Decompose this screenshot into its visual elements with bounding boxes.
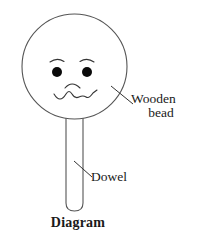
dowel-shape xyxy=(66,108,83,211)
diagram-canvas xyxy=(0,0,198,240)
label-wooden-bead-line1: Wooden xyxy=(131,91,176,106)
label-wooden-bead-line2: bead xyxy=(131,106,191,120)
left-eye-icon xyxy=(52,67,62,77)
right-eye-icon xyxy=(82,67,92,77)
label-wooden-bead: Wooden bead xyxy=(131,92,197,120)
diagram-figure: Wooden bead Dowel Diagram xyxy=(0,0,198,240)
wooden-bead-shape xyxy=(22,14,127,119)
label-dowel: Dowel xyxy=(91,170,127,184)
figure-caption: Diagram xyxy=(0,216,156,230)
